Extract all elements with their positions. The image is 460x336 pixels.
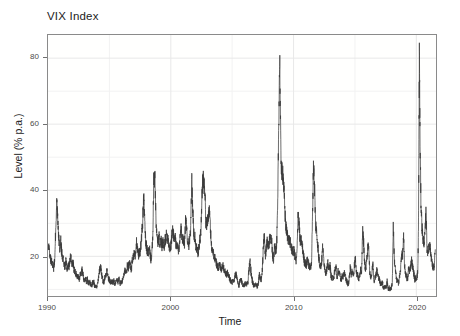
x-tick-label: 2000 (150, 303, 190, 312)
chart-title: VIX Index (47, 10, 99, 22)
y-tick-mark (43, 257, 47, 258)
x-tick-mark (170, 297, 171, 301)
y-tick-label: 80 (13, 52, 39, 61)
x-axis-title: Time (0, 315, 460, 327)
x-tick-label: 2010 (274, 303, 314, 312)
x-tick-label: 2020 (397, 303, 437, 312)
y-tick-mark (43, 190, 47, 191)
y-tick-mark (43, 57, 47, 58)
plot-panel (47, 34, 437, 297)
x-tick-mark (47, 297, 48, 301)
y-axis-title: Level (% p.a.) (12, 66, 24, 226)
x-tick-mark (417, 297, 418, 301)
data-layer (48, 35, 436, 296)
chart-figure: VIX Index 204060801990200020102020 Time … (0, 0, 460, 336)
x-tick-mark (294, 297, 295, 301)
y-tick-label: 20 (13, 252, 39, 261)
y-tick-mark (43, 124, 47, 125)
x-tick-label: 1990 (27, 303, 67, 312)
